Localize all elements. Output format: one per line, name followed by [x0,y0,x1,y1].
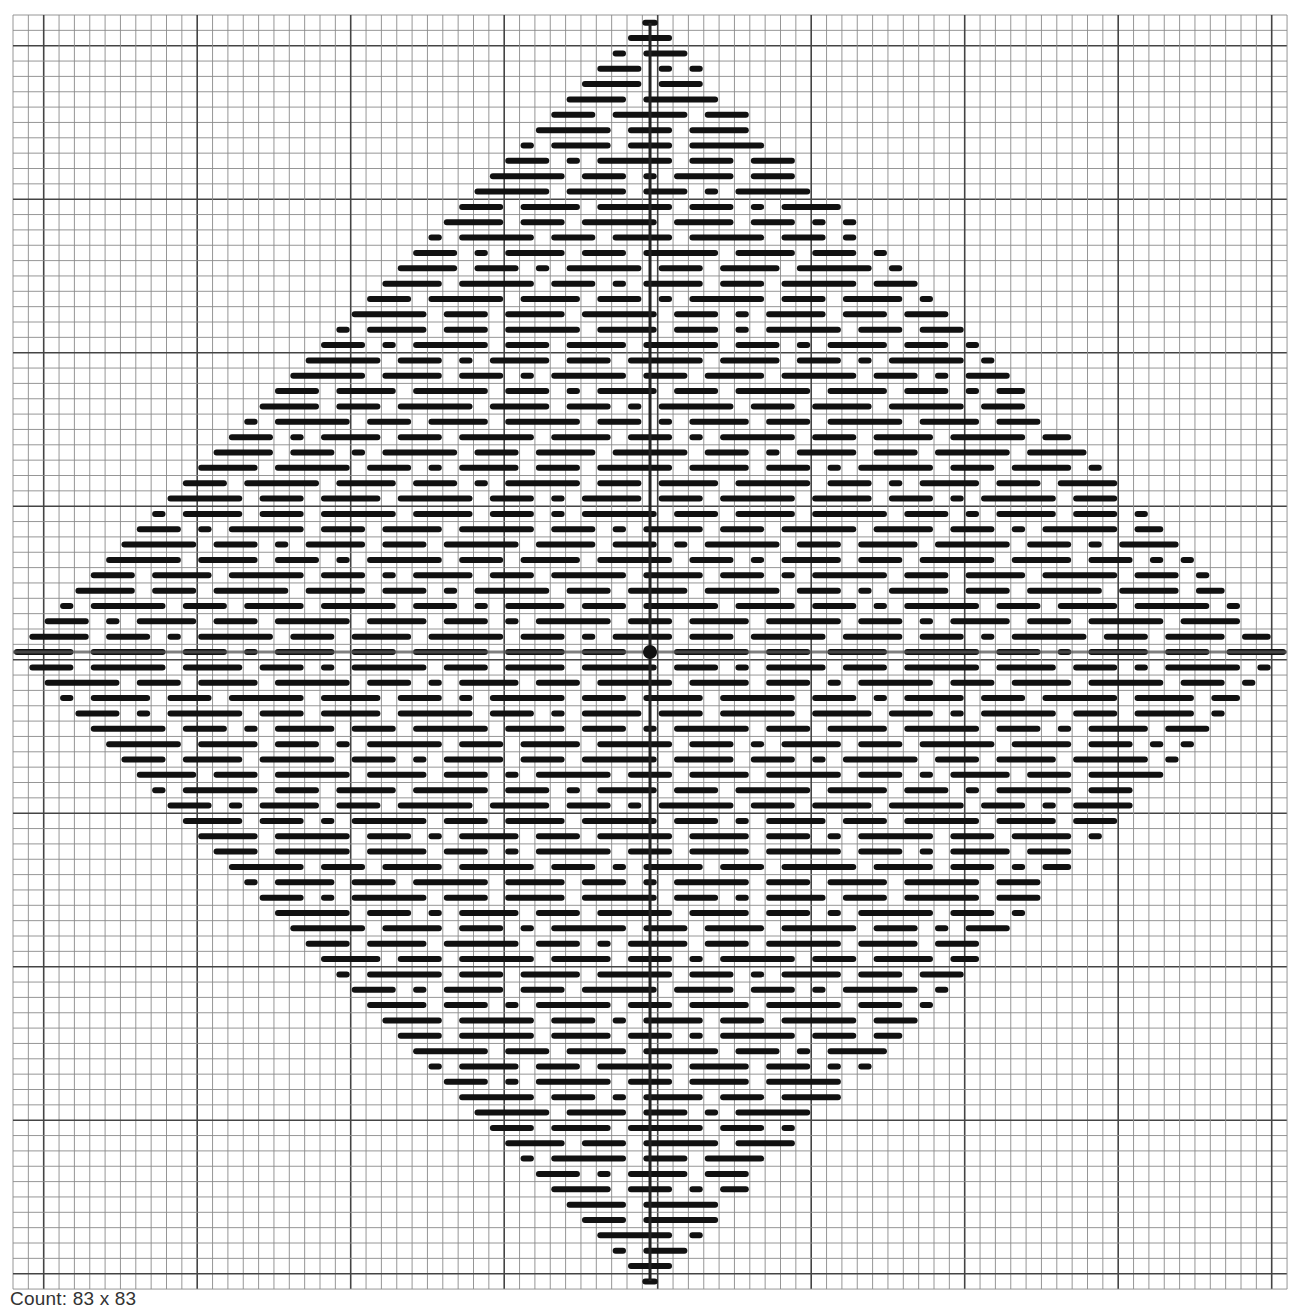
stitch-grid [0,0,1291,1290]
count-caption: Count: 83 x 83 [10,1288,136,1307]
center-marker-icon [643,645,657,659]
center-lines [13,23,1287,1281]
stitch-chart [0,0,1291,1290]
